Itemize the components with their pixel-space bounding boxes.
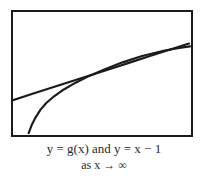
plot-canvas [13, 12, 191, 135]
curve-g-of-x [29, 46, 190, 133]
caption-line-2: as x → ∞ [0, 158, 208, 174]
caption-line-1: y = g(x) and y = x − 1 [0, 140, 208, 157]
plot-frame [11, 10, 193, 137]
figure-caption: y = g(x) and y = x − 1 as x → ∞ [0, 140, 208, 174]
figure-container: y = g(x) and y = x − 1 as x → ∞ [0, 0, 208, 180]
